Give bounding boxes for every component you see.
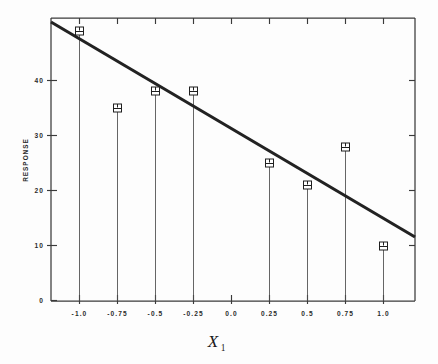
x-tick-label: 0.5 bbox=[301, 310, 313, 317]
y-tick-label: 40 bbox=[34, 77, 44, 84]
x-tick-label: -1.0 bbox=[72, 310, 88, 317]
x-tick-marks-bottom bbox=[80, 295, 384, 301]
data-point bbox=[76, 27, 84, 35]
data-point bbox=[114, 104, 122, 112]
x-tick-label: -0.5 bbox=[148, 310, 164, 317]
data-point bbox=[152, 87, 160, 95]
x-axis-title-base: X bbox=[207, 332, 219, 351]
x-axis-title: X 1 bbox=[207, 332, 226, 353]
x-tick-label: 1.0 bbox=[377, 310, 389, 317]
x-axis-title-subscript: 1 bbox=[221, 343, 226, 353]
y-axis-title: RESPONSE bbox=[22, 138, 29, 182]
data-points bbox=[76, 27, 388, 250]
scatter-plot-figure: 0 10 20 30 40 -1.0 -0.75 -0.5 -0.25 0.0 … bbox=[0, 0, 438, 364]
y-axis-tick-labels: 0 10 20 30 40 bbox=[34, 77, 44, 304]
plot-canvas: 0 10 20 30 40 -1.0 -0.75 -0.5 -0.25 0.0 … bbox=[0, 0, 438, 364]
x-tick-label: 0.25 bbox=[261, 310, 278, 317]
y-tick-label: 0 bbox=[39, 297, 44, 304]
y-tick-marks-left bbox=[51, 81, 57, 301]
x-axis-tick-labels: -1.0 -0.75 -0.5 -0.25 0.0 0.25 0.5 0.75 … bbox=[72, 310, 390, 317]
y-tick-marks-right bbox=[409, 81, 415, 246]
drop-lines bbox=[80, 31, 384, 301]
x-tick-label: 0.75 bbox=[337, 310, 354, 317]
axis-frame bbox=[51, 18, 415, 301]
data-point bbox=[190, 87, 198, 95]
x-tick-label: 0.0 bbox=[225, 310, 237, 317]
x-tick-label: -0.75 bbox=[107, 310, 128, 317]
y-tick-label: 10 bbox=[34, 242, 44, 249]
data-point bbox=[266, 159, 274, 167]
y-tick-label: 20 bbox=[34, 187, 44, 194]
regression-line bbox=[51, 22, 415, 237]
x-tick-marks-top bbox=[80, 18, 384, 24]
x-tick-label: -0.25 bbox=[183, 310, 204, 317]
y-tick-label: 30 bbox=[34, 132, 44, 139]
data-point bbox=[342, 143, 350, 151]
data-point bbox=[380, 242, 388, 250]
data-point bbox=[304, 181, 312, 189]
